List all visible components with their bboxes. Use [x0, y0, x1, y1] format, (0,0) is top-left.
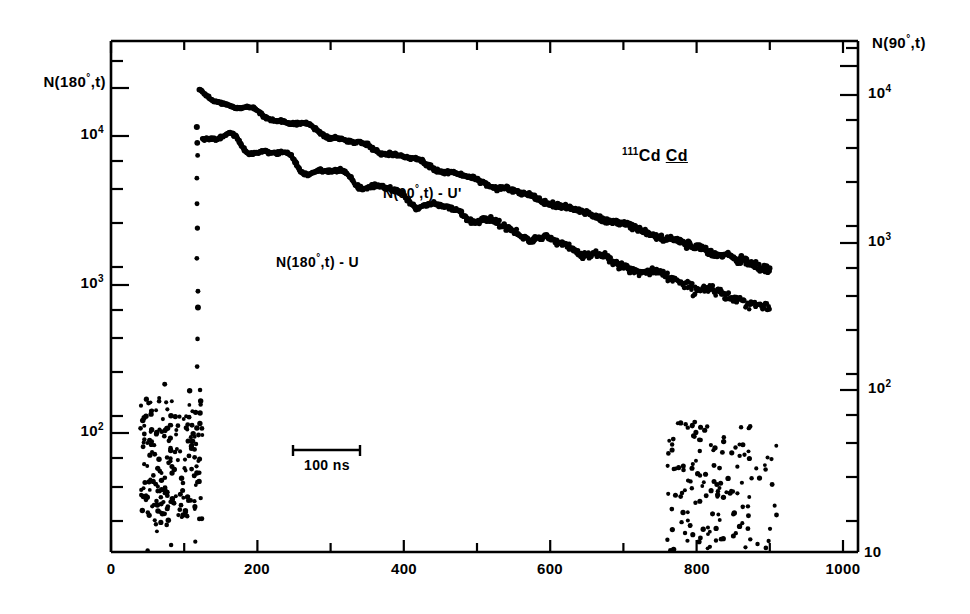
- left-ytick-label-1e4: 104: [81, 124, 104, 142]
- y-axis-left-ticks: [111, 61, 129, 521]
- left-ytick-exponent-1e3: 3: [98, 273, 104, 284]
- right-ytick-label-1e1: 10: [864, 543, 882, 560]
- xtick-label-600: 600: [537, 560, 563, 577]
- sample-mass-number: 111: [622, 146, 639, 157]
- xtick-label-800: 800: [684, 560, 710, 577]
- sample-label: 111Cd Cd: [622, 146, 688, 165]
- right-ytick-mantissa-1e4: 10: [868, 84, 886, 101]
- x-axis-ticks: [111, 540, 843, 552]
- right-ytick-exponent-1e3: 3: [886, 231, 892, 242]
- right-axis-title: N(90°,t): [872, 33, 926, 51]
- right-ytick-label-1e3: 103: [868, 231, 891, 249]
- left-axis-title-prefix: N(180: [43, 73, 86, 90]
- axis-frame: [111, 41, 858, 552]
- right-ytick-label-1e2: 102: [868, 378, 891, 396]
- right-axis-title-suffix: ,t): [911, 34, 926, 51]
- left-axis-title-suffix: ,t): [91, 73, 106, 90]
- left-ytick-label-1e3: 103: [81, 273, 104, 291]
- series-label-upper-suffix: ,t) - U': [419, 185, 461, 201]
- xtick-label-200: 200: [244, 560, 270, 577]
- right-ytick-label-1e4: 104: [868, 83, 891, 101]
- left-ytick-label-1e2: 102: [81, 421, 104, 439]
- right-axis-title-prefix: N(90: [872, 34, 906, 51]
- scale-bar-label: 100 ns: [304, 457, 350, 473]
- x-axis-top-ticks: [111, 41, 843, 53]
- series-label-lower-prefix: N(180: [276, 254, 316, 270]
- right-ytick-mantissa-1e2: 10: [868, 379, 886, 396]
- sample-element: Cd: [639, 147, 666, 164]
- left-ytick-mantissa-1e4: 10: [81, 125, 99, 142]
- left-ytick-exponent-1e4: 4: [98, 124, 104, 135]
- sample-host: Cd: [666, 147, 688, 164]
- left-ytick-exponent-1e2: 2: [98, 421, 104, 432]
- xtick-label-400: 400: [391, 560, 417, 577]
- left-axis-title: N(180°,t): [43, 72, 106, 90]
- series-label-upper: N(90°,t) - U': [383, 183, 462, 201]
- series-label-upper-prefix: N(90: [383, 185, 415, 201]
- xtick-label-1000: 1000: [826, 560, 861, 577]
- right-ytick-mantissa-1e1: 10: [864, 543, 882, 560]
- right-ytick-exponent-1e2: 2: [886, 378, 892, 389]
- series-label-lower: N(180°,t) - U: [276, 252, 359, 270]
- xtick-label-0: 0: [107, 560, 116, 577]
- left-ytick-mantissa-1e2: 10: [81, 422, 99, 439]
- figure-root: N(180°,t) N(90°,t) 104 103 102 104 103 1…: [0, 0, 970, 614]
- y-axis-right-ticks: [840, 48, 858, 521]
- left-ytick-mantissa-1e3: 10: [81, 274, 99, 291]
- series-label-lower-suffix: ,t) - U: [321, 254, 360, 270]
- right-ytick-mantissa-1e3: 10: [868, 232, 886, 249]
- plot-canvas: [0, 0, 970, 614]
- scale-bar: [293, 445, 360, 456]
- right-ytick-exponent-1e4: 4: [886, 83, 892, 94]
